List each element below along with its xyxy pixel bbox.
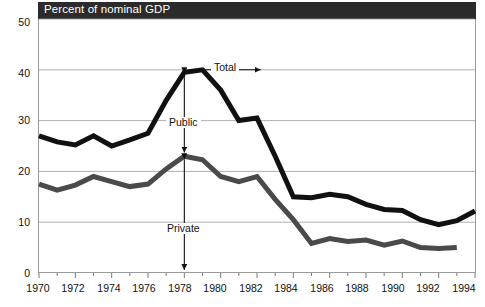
chart-canvas bbox=[0, 0, 485, 307]
x-axis-ticks bbox=[39, 273, 475, 278]
data-series-group bbox=[39, 70, 475, 249]
chart-figure: Percent of nominal GDP 50 40 30 20 10 0 … bbox=[0, 0, 485, 307]
annotation-label-public: Public bbox=[166, 117, 201, 128]
annotation-arrows bbox=[184, 70, 260, 270]
annotation-label-private: Private bbox=[164, 223, 203, 234]
annotation-label-total: Total bbox=[211, 62, 239, 73]
